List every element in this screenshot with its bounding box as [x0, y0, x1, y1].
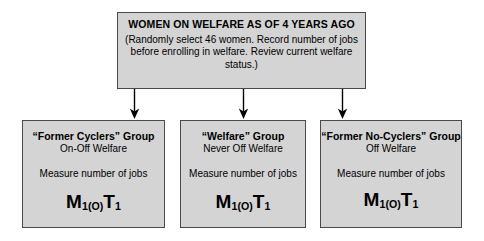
- branch-status: On-Off Welfare: [23, 143, 164, 156]
- branch-group-name: “Welfare” Group: [181, 130, 305, 143]
- notation-treatment-subscript: 1: [413, 198, 419, 210]
- notation-measure-subscript: 1(O): [380, 198, 401, 210]
- branch-measure: Measure number of jobs: [321, 168, 461, 180]
- branch-status: Off Welfare: [321, 143, 461, 156]
- root-node-description: (Randomly select 46 women. Record number…: [124, 34, 359, 72]
- branch-measure: Measure number of jobs: [181, 168, 305, 180]
- connector-arrowheads: [130, 109, 347, 120]
- root-node-women-on-welfare: WOMEN ON WELFARE AS OF 4 YEARS AGO (Rand…: [117, 12, 366, 89]
- branch-group-name: “Former No-Cyclers” Group: [321, 130, 461, 143]
- notation-measure-subscript: 1(O): [232, 200, 253, 212]
- root-node-title: WOMEN ON WELFARE AS OF 4 YEARS AGO: [124, 18, 359, 31]
- branch-notation: M1(O)T1: [23, 191, 164, 213]
- notation-treatment-subscript: 1: [265, 200, 271, 212]
- notation-treatment-subscript: 1: [115, 200, 121, 212]
- branch-notation: M1(O)T1: [321, 189, 461, 211]
- arrowhead-former-cyclers: [130, 109, 139, 120]
- flowchart-diagram: WOMEN ON WELFARE AS OF 4 YEARS AGO (Rand…: [0, 0, 484, 241]
- branch-node-former-cyclers: “Former Cyclers” Group On-Off Welfare Me…: [22, 120, 165, 228]
- branch-node-welfare: “Welfare” Group Never Off Welfare Measur…: [180, 120, 306, 228]
- notation-treatment-symbol: T: [253, 191, 265, 212]
- notation-measure-symbol: M: [215, 191, 231, 212]
- branch-group-name: “Former Cyclers” Group: [23, 130, 164, 143]
- branch-notation: M1(O)T1: [181, 191, 305, 213]
- arrowhead-former-no-cyclers: [338, 109, 347, 120]
- arrowhead-welfare: [239, 109, 248, 120]
- branch-node-former-no-cyclers: “Former No-Cyclers” Group Off Welfare Me…: [320, 120, 462, 228]
- notation-measure-symbol: M: [66, 191, 82, 212]
- notation-measure-subscript: 1(O): [82, 200, 103, 212]
- branch-measure: Measure number of jobs: [23, 168, 164, 180]
- branch-status: Never Off Welfare: [181, 143, 305, 156]
- notation-measure-symbol: M: [363, 189, 379, 210]
- notation-treatment-symbol: T: [401, 189, 413, 210]
- notation-treatment-symbol: T: [103, 191, 115, 212]
